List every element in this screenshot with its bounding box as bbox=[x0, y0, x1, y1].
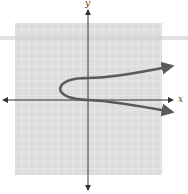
y-axis-label: y bbox=[85, 0, 90, 8]
x-axis-label: x bbox=[178, 94, 183, 104]
graph bbox=[0, 0, 188, 194]
